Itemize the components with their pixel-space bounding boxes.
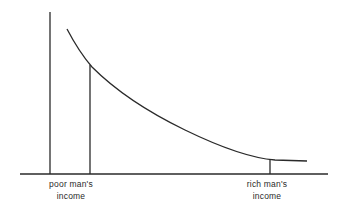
poor-income-label-line2: income [57,191,86,201]
diagram-canvas: poor man's income rich man's income [0,0,345,212]
rich-income-label-line2: income [253,191,282,201]
poor-income-label-line1: poor man's [49,179,93,189]
rich-income-label-line1: rich man's [247,179,287,189]
utility-curve [67,29,307,161]
